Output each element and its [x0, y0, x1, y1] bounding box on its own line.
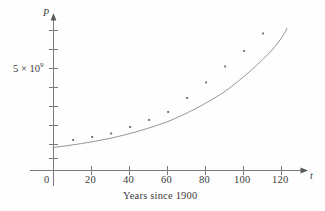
data-point: [148, 119, 150, 121]
data-point: [262, 33, 264, 35]
data-point: [167, 111, 169, 113]
y-tick-label-exponent: 9: [40, 61, 44, 69]
x-axis-tick-label-20: 20: [85, 175, 96, 186]
x-axis-name-label: t: [310, 171, 313, 181]
y-axis-arrowhead: [51, 13, 57, 21]
x-axis-tick-label-100: 100: [234, 175, 250, 186]
y-axis-name-label: P: [43, 8, 49, 18]
data-point: [243, 50, 245, 52]
x-axis-arrowhead: [301, 168, 309, 174]
data-point: [186, 97, 188, 99]
population-figure: P t 5 × 109 0 20 40 60 80 100 120 Years …: [0, 0, 325, 211]
data-point: [91, 136, 93, 138]
figure-caption: Years since 1900: [123, 191, 197, 202]
data-point: [129, 126, 131, 128]
x-axis-origin-label: 0: [44, 175, 49, 186]
x-axis-tick-label-120: 120: [272, 175, 288, 186]
data-point: [205, 82, 207, 84]
x-axis-tick-label-40: 40: [123, 175, 134, 186]
exponential-fit-curve: [53, 29, 287, 148]
x-axis-tick-label-60: 60: [161, 175, 172, 186]
data-point: [110, 133, 112, 135]
data-point: [72, 139, 74, 141]
data-points: [72, 33, 264, 141]
data-point: [224, 66, 226, 68]
y-tick-label-prefix: 5 × 10: [13, 63, 40, 74]
y-axis-tick-label-5e9: 5 × 109: [13, 62, 43, 74]
x-axis-tick-label-80: 80: [199, 175, 210, 186]
